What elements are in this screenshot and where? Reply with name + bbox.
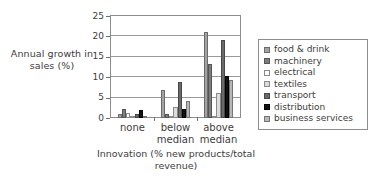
legend-swatch-icon — [264, 104, 270, 110]
legend-item-label: machinery — [274, 56, 322, 68]
bar-group — [154, 16, 197, 118]
y-tick-label: 20 — [84, 32, 104, 41]
bar-group — [197, 16, 240, 118]
x-axis-title-text: Innovation (% new products/total revenue… — [97, 148, 255, 171]
legend-item[interactable]: electrical — [264, 67, 363, 79]
bar-group — [111, 16, 154, 118]
legend-item[interactable]: textiles — [264, 79, 363, 91]
bar-chart: Annual growth in sales (%) 0510152025 no… — [0, 0, 372, 182]
x-category-label: abovemedian — [191, 122, 247, 145]
bar — [143, 116, 147, 118]
legend-item[interactable]: distribution — [264, 102, 363, 114]
legend-swatch-icon — [264, 47, 270, 53]
bars-layer — [111, 16, 240, 118]
legend-swatch-icon — [264, 116, 270, 122]
legend-swatch-icon — [264, 93, 270, 99]
x-category-label-line: above — [191, 122, 247, 134]
y-tick-label: 25 — [84, 12, 104, 21]
bar — [208, 64, 212, 118]
y-tick-label: 15 — [84, 52, 104, 61]
legend-swatch-icon — [264, 58, 270, 64]
legend-item-label: food & drink — [274, 44, 329, 56]
x-axis-title: Innovation (% new products/total revenue… — [96, 148, 256, 171]
y-axis-title-text: Annual growth in sales (%) — [11, 48, 93, 71]
y-tick-label: 0 — [84, 114, 104, 123]
bar — [186, 101, 190, 118]
legend-swatch-icon — [264, 70, 270, 76]
x-tick-mark — [197, 117, 198, 121]
legend-item[interactable]: business services — [264, 113, 363, 125]
y-tick-mark — [106, 118, 110, 119]
y-tick-label: 5 — [84, 93, 104, 102]
legend-swatch-icon — [264, 81, 270, 87]
legend: food & drinkmachineryelectricaltextilest… — [258, 39, 368, 130]
x-tick-mark — [154, 117, 155, 121]
legend-item-label: transport — [274, 90, 316, 102]
legend-item[interactable]: machinery — [264, 56, 363, 68]
legend-item-label: business services — [274, 113, 353, 125]
legend-item[interactable]: transport — [264, 90, 363, 102]
legend-item-label: electrical — [274, 67, 315, 79]
legend-item-label: textiles — [274, 79, 307, 91]
x-category-label-line: median — [191, 134, 247, 146]
bar — [229, 80, 233, 118]
legend-item-label: distribution — [274, 102, 325, 114]
legend-item[interactable]: food & drink — [264, 44, 363, 56]
y-tick-label: 10 — [84, 73, 104, 82]
